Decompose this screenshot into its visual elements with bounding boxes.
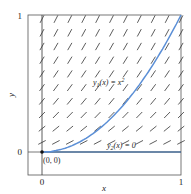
slope-segment [109,98,114,104]
slope-segment [67,98,72,104]
slope-segment [123,15,127,22]
slope-segment [95,70,100,77]
slope-segment [53,84,58,91]
slope-segment [165,15,169,22]
slope-segment [164,112,170,118]
slope-segment [68,57,72,64]
slope-segment [123,57,127,64]
slope-segment [54,29,58,36]
slope-segment [136,126,143,131]
slope-segment [53,112,59,118]
slope-segment [151,84,156,91]
slope-segment [53,98,58,104]
slope-segment [110,15,114,22]
slope-segment [137,98,142,104]
y-tick-0: 0 [18,147,23,157]
slope-segment [82,29,86,36]
curve-y1-label: y1(x) = x2 [92,77,124,88]
slope-segment [165,70,170,77]
slope-segment [54,43,58,50]
slope-segment [108,126,115,131]
slope-segment [163,140,170,144]
slope-segment [151,29,155,36]
slope-segment [95,112,101,118]
slope-segment [80,126,87,131]
slope-segment [151,15,155,22]
slope-segment [122,112,128,118]
slope-segment [54,70,59,77]
slope-segment [81,70,86,77]
slope-segment [137,15,141,22]
y-tick-1: 1 [18,11,23,21]
slope-segment [136,140,143,144]
slope-segment [67,84,72,91]
slope-segment [67,70,72,77]
slope-segment [164,98,169,104]
slope-segment [95,57,99,64]
slope-segment [123,29,127,36]
slope-segment [82,43,86,50]
slope-segment [137,43,141,50]
slope-segment [137,29,141,36]
slope-segment [96,15,100,22]
x-tick-1: 1 [179,177,184,187]
slope-segment [136,112,142,118]
slope-segment [54,57,58,64]
slope-segment [68,15,72,22]
slope-segment [137,70,142,77]
slope-segment [150,126,157,131]
slope-segment [81,57,85,64]
slope-field-figure: 1 0 0 1 x y (0, 0) y1(x) = x2 y2(x) = 0 [0,0,191,194]
slope-segment [52,140,59,144]
slope-segment [109,43,113,50]
slope-segment [123,43,127,50]
slope-segment [137,57,141,64]
slope-segment [165,57,169,64]
slope-segment [53,126,60,131]
slope-segment [164,126,171,131]
slope-segment [94,140,101,144]
origin-point [40,150,44,154]
y-axis-label: y [6,93,16,98]
slope-segment [151,98,156,104]
slope-segment [122,126,129,131]
curve-y2-label: y2(x) = 0 [106,141,136,151]
slope-segment [109,29,113,36]
slope-segment [81,84,86,91]
slope-segment [95,43,99,50]
slope-segment [81,98,86,104]
slope-segment [123,84,128,91]
slope-segment [109,57,113,64]
slope-segment [68,29,72,36]
slope-segment [67,126,74,131]
slope-segment [151,70,156,77]
slope-segment [151,43,155,50]
x-tick-0: 0 [40,177,45,187]
slope-segment [95,98,100,104]
x-axis-label: x [101,183,106,193]
slope-segment [149,140,156,144]
slope-segment [66,140,73,144]
slope-segment [68,43,72,50]
origin-label: (0, 0) [43,156,61,165]
slope-segment [82,15,86,22]
slope-segment [67,112,73,118]
slope-segment [165,29,169,36]
slope-segment [81,112,87,118]
slope-segment [54,15,58,22]
slope-segment [165,84,170,91]
slope-segment [150,112,156,118]
slope-segment [109,70,114,77]
slope-segment [96,29,100,36]
